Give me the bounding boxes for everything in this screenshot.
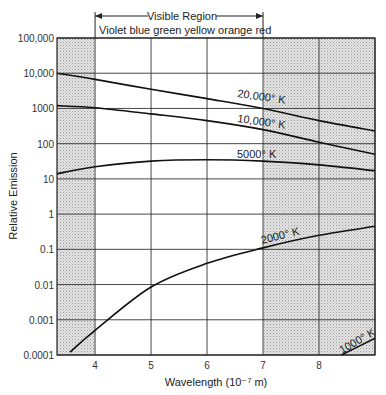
visible-region-label: Visible Region (147, 10, 217, 22)
x-tick-label: 7 (260, 360, 266, 371)
x-tick-label: 4 (92, 360, 98, 371)
x-tick-label: 8 (316, 360, 322, 371)
spectrum-colors-label: Violet blue green yellow orange red (99, 24, 271, 36)
y-tick-label: 0.001 (29, 315, 54, 326)
shaded-region (57, 38, 95, 355)
y-tick-label: 0.0001 (23, 350, 54, 361)
y-tick-label: 1000 (32, 103, 55, 114)
x-axis-label: Wavelength (10⁻⁷ m) (165, 376, 268, 388)
non-visible-shading (57, 38, 375, 355)
y-axis-label: Relative Emission (7, 152, 19, 239)
y-tick-label: 0.1 (40, 244, 54, 255)
visible-region-header: Visible RegionViolet blue green yellow o… (95, 10, 271, 38)
chart: 20,000° K10,000° K5000° K2000° K1000° K … (0, 0, 386, 395)
y-tick-label: 1 (48, 209, 54, 220)
y-tick-label: 100 (37, 139, 54, 150)
y-tick-label: 100,000 (18, 33, 55, 44)
y-tick-label: 10 (43, 174, 55, 185)
y-tick-label: 0.01 (35, 280, 55, 291)
curve-label: 5000° K (237, 148, 277, 160)
y-tick-label: 10,000 (23, 68, 54, 79)
x-tick-label: 6 (204, 360, 210, 371)
x-tick-label: 5 (148, 360, 154, 371)
